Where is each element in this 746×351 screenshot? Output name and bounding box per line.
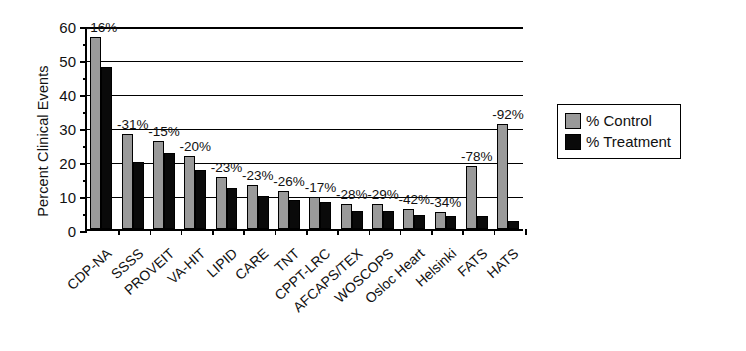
x-axis-label-afcaps-tex: AFCAPS/TEX — [290, 245, 365, 315]
legend-item: % Treatment — [565, 131, 671, 152]
bar-group — [278, 27, 300, 229]
bar-group — [90, 27, 112, 229]
bar-control — [184, 156, 195, 229]
data-label: -31% — [117, 117, 149, 132]
y-tick — [80, 197, 87, 199]
x-axis-label-proveit: PROVEIT — [121, 245, 177, 298]
y-tick-minor — [83, 214, 87, 216]
data-label: -23% — [211, 160, 243, 175]
y-tick — [80, 231, 87, 233]
y-tick-label: 40 — [59, 87, 76, 104]
data-label: -15% — [148, 124, 180, 139]
x-tick — [181, 229, 183, 235]
bar-control — [466, 166, 477, 229]
x-tick — [369, 229, 371, 235]
y-tick-label: 60 — [59, 19, 76, 36]
x-axis-label-va-hit: VA-HIT — [165, 245, 209, 287]
x-axis-label-lipid: LIPID — [203, 245, 240, 280]
legend-label: % Treatment — [586, 133, 671, 150]
bar-treatment — [352, 211, 363, 229]
bar-control — [122, 134, 133, 229]
bar-treatment — [195, 170, 206, 230]
bar-group — [309, 27, 331, 229]
data-label: -29% — [367, 187, 399, 202]
bar-treatment — [477, 216, 488, 229]
bar-treatment — [289, 200, 300, 229]
y-tick-label: 20 — [59, 155, 76, 172]
legend: % Control% Treatment — [557, 104, 681, 159]
x-axis-label-cppt-lrc: CPPT-LRC — [272, 245, 334, 303]
x-tick — [525, 229, 527, 235]
y-tick — [80, 61, 87, 63]
y-tick — [80, 95, 87, 97]
y-axis-title: Percent Clinical Events — [35, 26, 51, 256]
bar-control — [435, 212, 446, 229]
bar-control — [216, 177, 227, 229]
x-axis-label-hats: HATS — [484, 245, 522, 281]
y-tick-minor — [83, 112, 87, 114]
data-label: -26% — [273, 174, 305, 189]
x-axis-label-helsinki: Helsinki — [412, 245, 459, 290]
bar-control — [372, 204, 383, 230]
y-tick-minor — [83, 146, 87, 148]
y-tick-label: 30 — [59, 121, 76, 138]
bar-treatment — [258, 196, 269, 229]
y-tick-minor — [83, 78, 87, 80]
x-tick — [494, 229, 496, 235]
data-label: -78% — [461, 149, 493, 164]
x-axis-label-ssss: SSSS — [108, 245, 146, 282]
bar-treatment — [133, 162, 144, 229]
bar-treatment — [446, 216, 457, 229]
x-axis-label-cdp-na: CDP-NA — [64, 245, 115, 293]
bar-group — [184, 27, 206, 229]
data-label: -34% — [430, 195, 462, 210]
x-axis-label-woscops: WOSCOPS — [331, 245, 396, 306]
bar-group — [247, 27, 269, 229]
plot-area: 0102030405060 -16%-31%-15%-20%-23%-23%-2… — [85, 27, 523, 231]
x-axis-label-osloc-heart: Osloc Heart — [362, 245, 428, 306]
bar-treatment — [227, 188, 238, 229]
x-tick — [212, 229, 214, 235]
bar-group — [216, 27, 238, 229]
bar-control — [497, 124, 508, 229]
bar-chart: Percent Clinical Events 0102030405060 -1… — [0, 0, 746, 351]
bar-group — [466, 27, 488, 229]
bar-treatment — [101, 67, 112, 229]
bar-group — [497, 27, 519, 229]
x-axis-label-tnt: TNT — [272, 245, 303, 275]
x-tick — [431, 229, 433, 235]
bar-control — [341, 204, 352, 230]
legend-swatch-control — [565, 113, 581, 129]
x-axis-label-fats: FATS — [454, 245, 490, 280]
y-tick-minor — [83, 180, 87, 182]
data-label: -42% — [398, 192, 430, 207]
y-tick-label: 10 — [59, 189, 76, 206]
x-tick — [462, 229, 464, 235]
x-tick — [118, 229, 120, 235]
bar-treatment — [320, 202, 331, 229]
data-label: -17% — [305, 180, 337, 195]
x-tick — [400, 229, 402, 235]
legend-item: % Control — [565, 110, 671, 131]
bar-control — [309, 197, 320, 229]
data-label: -20% — [179, 139, 211, 154]
x-tick — [275, 229, 277, 235]
x-tick — [306, 229, 308, 235]
y-tick-minor — [83, 44, 87, 46]
bar-treatment — [383, 211, 394, 229]
bar-control — [247, 185, 258, 229]
bar-treatment — [164, 153, 175, 229]
x-tick — [150, 229, 152, 235]
bar-control — [153, 141, 164, 229]
data-label: -92% — [492, 107, 524, 122]
legend-swatch-treatment — [565, 134, 581, 150]
bar-control — [90, 37, 101, 229]
x-axis-label-care: CARE — [232, 245, 272, 283]
y-tick — [80, 129, 87, 131]
data-label: -23% — [242, 168, 274, 183]
x-tick — [243, 229, 245, 235]
y-tick-label: 0 — [68, 223, 76, 240]
data-label: -16% — [86, 20, 118, 35]
x-tick — [337, 229, 339, 235]
bar-control — [278, 191, 289, 229]
